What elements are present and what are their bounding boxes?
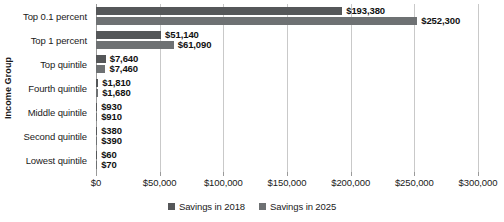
bar-value-label: $7,460 [109,63,137,74]
y-axis-tick-label: Middle quintile [0,100,87,124]
bar-rect [96,89,98,97]
bar-group: $1,810$1,680 [96,76,478,100]
y-axis-tick-label: Fourth quintile [0,76,87,100]
bar-group: $930$910 [96,100,478,124]
bar-group: $60$70 [96,148,478,172]
bar-rect [96,113,97,121]
x-axis-tick-label: $150,000 [268,177,307,188]
bar-value-label: $390 [101,135,122,146]
bar-rect [96,65,105,73]
x-axis-tick-mark [351,172,352,176]
bar-rect [96,31,161,39]
x-axis-tick-mark [160,172,161,176]
bar-rect [96,151,97,159]
bar-rows: $193,380$252,300$51,140$61,090$7,640$7,4… [96,4,478,172]
legend-swatch-icon [168,203,175,210]
x-axis: $0$50,000$100,000$150,000$200,000$250,00… [96,172,478,188]
legend-label: Savings in 2018 [179,201,245,212]
x-axis-tick-label: $300,000 [459,177,498,188]
x-axis-tick-label: $0 [91,177,101,188]
bar-value-label: $252,300 [421,15,460,26]
bar-group: $51,140$61,090 [96,28,478,52]
legend-item-2018[interactable]: Savings in 2018 [168,201,245,212]
bar-rect [96,103,97,111]
legend-swatch-icon [259,203,266,210]
bar-group: $380$390 [96,124,478,148]
bar-value-label: $61,090 [178,39,212,50]
bar-rect [96,79,98,87]
legend-item-2025[interactable]: Savings in 2025 [259,201,336,212]
bar-rect [96,161,97,169]
chart-legend: Savings in 2018Savings in 2025 [0,198,504,214]
y-axis-tick-label: Top 1 percent [0,28,87,52]
bar-chart: Income Group Top 0.1 percentTop 1 percen… [0,0,504,222]
x-axis-tick-mark [414,172,415,176]
bar-group: $193,380$252,300 [96,4,478,28]
x-axis-tick-label: $250,000 [395,177,434,188]
y-axis-tick-label: Top quintile [0,52,87,76]
y-axis-tick-label: Top 0.1 percent [0,4,87,28]
bar-rect [96,55,106,63]
x-axis-tick-mark [287,172,288,176]
x-axis-tick-mark [96,172,97,176]
y-axis-tick-label: Second quintile [0,124,87,148]
y-axis-category-labels: Top 0.1 percentTop 1 percentTop quintile… [0,4,92,172]
gridline-300000 [478,4,479,172]
bar-rect [96,7,342,15]
bar-value-label: $1,680 [102,87,130,98]
y-axis-tick-label: Lowest quintile [0,148,87,172]
bar-rect [96,17,417,25]
x-axis-tick-mark [478,172,479,176]
bar-rect [96,41,174,49]
x-axis-tick-label: $100,000 [204,177,243,188]
x-axis-tick-mark [223,172,224,176]
bar-value-label: $910 [101,111,122,122]
bar-rect [96,137,97,145]
bar-rect [96,127,97,135]
legend-label: Savings in 2025 [270,201,336,212]
plot-area: $193,380$252,300$51,140$61,090$7,640$7,4… [96,4,478,172]
x-axis-tick-label: $200,000 [331,177,370,188]
bar-value-label: $193,380 [346,5,385,16]
x-axis-tick-label: $50,000 [143,177,177,188]
bar-group: $7,640$7,460 [96,52,478,76]
bar-value-label: $70 [101,159,117,170]
